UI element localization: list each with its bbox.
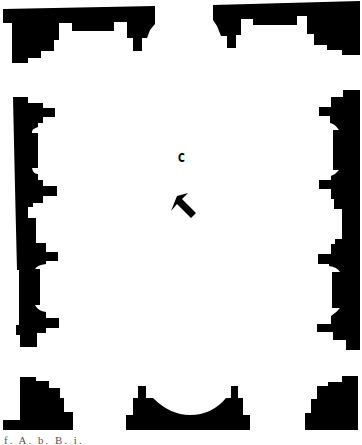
bottom-left-corner-block (3, 377, 73, 430)
room-label: C (178, 150, 185, 165)
arrow-up-left-icon (171, 193, 196, 218)
left-wall (13, 97, 59, 347)
right-wall (317, 90, 360, 350)
bottom-right-corner-block (305, 376, 358, 430)
floor-plan (0, 0, 362, 445)
figure-caption: f. A. b. B. i. (4, 434, 84, 445)
top-left-corner-block (3, 6, 155, 63)
bottom-center-apse (126, 386, 250, 430)
top-right-corner-block (213, 1, 360, 55)
